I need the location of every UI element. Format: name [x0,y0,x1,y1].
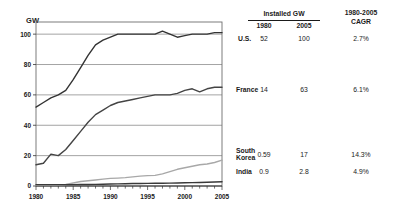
row-france-cagr: 6.1% [328,86,394,93]
axis-y-tick-label: 20 [24,152,32,159]
figure-root: GW 020406080100198019851990199520002005 … [0,0,401,205]
series-line-india [36,182,222,185]
axis-x-tick-label: 1980 [29,193,44,200]
line-chart: GW 020406080100198019851990199520002005 [0,0,236,205]
data-table: Installed GW 1980-2005 CAGR 1980 2005 U.… [236,0,401,205]
table-subheader-1980: 1980 [248,22,280,29]
row-india-1980: 0.9 [248,168,280,175]
row-south-korea-cagr: 14.3% [328,151,394,158]
plot-frame [36,22,222,186]
axis-y-tick-label: 0 [27,182,31,189]
table-row: U.S. 52 100 2.7% [236,35,401,49]
row-india-2005: 2.8 [288,168,320,175]
axis-x-tick-label: 2000 [178,193,193,200]
row-south-korea-1980: 0.59 [248,151,280,158]
row-france-1980: 14 [248,86,280,93]
table-subheader-2005: 2005 [288,22,320,29]
axis-y-tick-label: 100 [20,31,31,38]
row-us-2005: 100 [288,35,320,42]
row-india-cagr: 4.9% [328,168,394,175]
axis-x-tick-label: 2005 [215,193,230,200]
row-us-cagr: 2.7% [328,35,394,42]
axis-x-tick-label: 1985 [66,193,81,200]
row-france-2005: 63 [288,86,320,93]
axis-y-tick-label: 80 [24,61,32,68]
table-header-rule [248,20,320,21]
table-header-installed-gw: Installed GW [248,10,320,19]
row-south-korea-2005: 17 [288,151,320,158]
table-header-cagr: 1980-2005 CAGR [328,9,394,26]
series-line-u-s- [36,31,222,107]
series-line-france [36,87,222,164]
plot-svg: 020406080100198019851990199520002005 [0,0,236,205]
axis-x-tick-label: 1995 [140,193,155,200]
cagr-header-label: CAGR [328,18,394,27]
row-us-1980: 52 [248,35,280,42]
table-row: South Korea 0.59 17 14.3% [236,148,401,162]
axis-y-tick-label: 60 [24,91,32,98]
axis-x-tick-label: 1990 [103,193,118,200]
axis-y-tick-label: 40 [24,122,32,129]
series-line-south-korea [36,160,222,185]
table-row: India 0.9 2.8 4.9% [236,168,401,182]
table-row: France 14 63 6.1% [236,86,401,100]
cagr-header-years: 1980-2005 [328,9,394,18]
